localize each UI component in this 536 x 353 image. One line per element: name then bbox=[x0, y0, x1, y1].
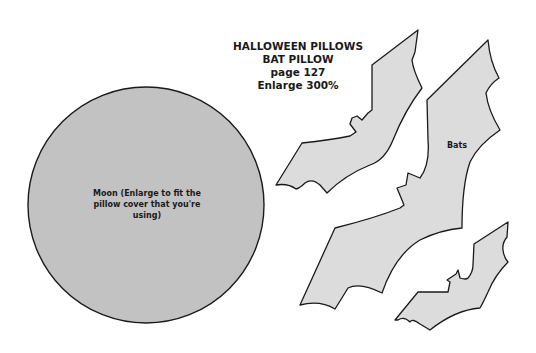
title-line-1: HALLOWEEN PILLOWS bbox=[232, 40, 364, 53]
title-line-4-enlarge: Enlarge 300% bbox=[232, 79, 364, 92]
title-line-3-page: page 127 bbox=[232, 66, 364, 79]
bats-label: Bats bbox=[440, 141, 474, 150]
title-line-2: BAT PILLOW bbox=[232, 53, 364, 66]
pattern-title-block: HALLOWEEN PILLOWS BAT PILLOW page 127 En… bbox=[232, 40, 364, 92]
moon-label: Moon (Enlarge to fit the pillow cover th… bbox=[86, 188, 208, 221]
